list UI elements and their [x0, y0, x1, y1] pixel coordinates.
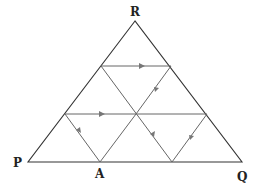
vertex-label-P: P [13, 156, 22, 170]
arrow-right-middle [99, 111, 105, 117]
arrow-right-upper [139, 63, 145, 69]
segment-upper-right-to-center [136, 66, 171, 114]
point-label-A: A [94, 167, 105, 181]
triangle-diagram: R P A Q [0, 0, 260, 192]
vertex-label-Q: Q [237, 170, 247, 184]
vertex-label-R: R [130, 5, 141, 19]
segment-A-to-center [100, 114, 136, 162]
arrow-down-upper-right [154, 87, 159, 92]
segment-A-to-left [65, 114, 100, 162]
arrow-down-lower-right [189, 135, 194, 140]
outer-triangle-PQR [28, 21, 242, 162]
segment-right-to-bottom [172, 114, 207, 162]
